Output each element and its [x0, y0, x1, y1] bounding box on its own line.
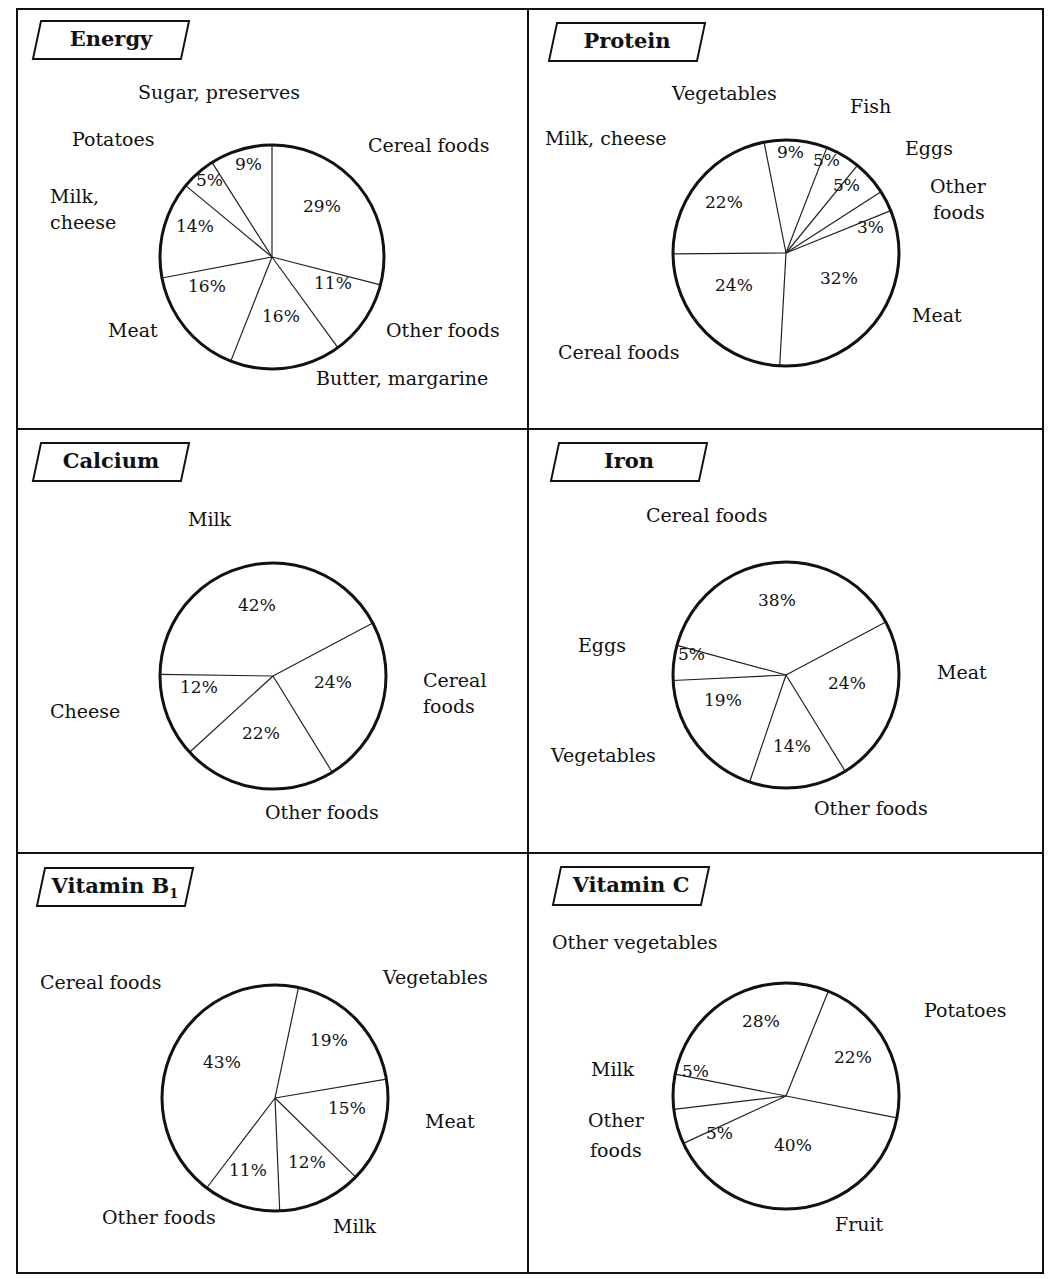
slice-label: Cereal foods	[558, 340, 679, 364]
slice-percentage: 24%	[314, 670, 352, 694]
panel-title-energy: Energy	[36, 20, 186, 60]
slice-label: Vegetables	[551, 743, 656, 767]
slice-divider	[673, 675, 786, 681]
pie-charts-canvas	[0, 0, 1061, 1279]
slice-percentage: 22%	[242, 721, 280, 745]
slice-percentage: 16%	[262, 304, 300, 328]
slice-label: Cereal	[423, 668, 487, 692]
pie-vitamin-c	[673, 983, 899, 1209]
slice-percentage: 28%	[742, 1009, 780, 1033]
slice-percentage: 14%	[176, 214, 214, 238]
slice-label: Cereal foods	[40, 970, 161, 994]
slice-label: foods	[933, 200, 985, 224]
slice-percentage: 11%	[229, 1158, 267, 1182]
slice-percentage: 5%	[706, 1121, 733, 1145]
slice-label: Milk	[188, 507, 231, 531]
slice-divider	[683, 1096, 786, 1143]
panel-title-iron: Iron	[554, 442, 704, 482]
slice-percentage: 43%	[203, 1050, 241, 1074]
slice-label: Other foods	[386, 318, 500, 342]
slice-label: foods	[590, 1138, 642, 1162]
slice-divider	[273, 623, 373, 676]
slice-label: Other vegetables	[552, 930, 717, 954]
slice-label: Vegetables	[383, 965, 488, 989]
slice-label: Milk,	[50, 184, 99, 208]
panel-title-vitamin-c: Vitamin C	[556, 866, 706, 906]
slice-divider	[673, 253, 786, 254]
pie-energy	[160, 145, 384, 369]
slice-percentage: 29%	[303, 194, 341, 218]
slice-percentage: 12%	[288, 1150, 326, 1174]
slice-label: foods	[423, 694, 475, 718]
slice-percentage: 9%	[777, 140, 804, 164]
slice-divider	[786, 1096, 897, 1118]
slice-label: Meat	[937, 660, 987, 684]
slice-percentage: 9%	[235, 152, 262, 176]
slice-label: Potatoes	[924, 998, 1007, 1022]
slice-divider	[786, 622, 886, 675]
slice-label: Milk	[591, 1057, 634, 1081]
panel-title-calcium: Calcium	[36, 442, 186, 482]
slice-label: Other foods	[265, 800, 379, 824]
slice-label: Sugar, preserves	[138, 80, 300, 104]
slice-label: Fruit	[835, 1212, 883, 1236]
slice-divider	[786, 991, 828, 1096]
slice-divider	[275, 1098, 280, 1211]
slice-percentage: 38%	[758, 588, 796, 612]
slice-label: Vegetables	[672, 81, 777, 105]
title-text: Protein	[552, 28, 702, 53]
slice-percentage: 5%	[678, 642, 705, 666]
slice-divider	[750, 675, 786, 782]
slice-label: Meat	[912, 303, 962, 327]
slice-label: Meat	[108, 318, 158, 342]
slice-label: cheese	[50, 210, 116, 234]
slice-label: Meat	[425, 1109, 475, 1133]
slice-label: Cereal foods	[368, 133, 489, 157]
slice-percentage: 19%	[310, 1028, 348, 1052]
slice-percentage: 12%	[180, 675, 218, 699]
pie-protein	[673, 140, 899, 366]
title-text: Vitamin B1	[40, 873, 190, 901]
slice-percentage: 16%	[188, 274, 226, 298]
slice-percentage: 5%	[682, 1059, 709, 1083]
slice-percentage: 24%	[715, 273, 753, 297]
slice-label: Other	[588, 1108, 644, 1132]
slice-label: Other foods	[102, 1205, 216, 1229]
slice-percentage: 19%	[704, 688, 742, 712]
slice-label: Eggs	[905, 136, 953, 160]
slice-divider	[780, 253, 786, 366]
slice-label: Other foods	[814, 796, 928, 820]
slice-percentage: 5%	[196, 168, 223, 192]
slice-percentage: 5%	[813, 148, 840, 172]
title-text: Energy	[36, 26, 186, 51]
slice-label: Butter, margarine	[316, 366, 488, 390]
slice-percentage: 40%	[774, 1133, 812, 1157]
slice-label: Fish	[850, 94, 891, 118]
slice-percentage: 11%	[314, 271, 352, 295]
slice-divider	[275, 987, 298, 1098]
slice-percentage: 3%	[857, 215, 884, 239]
slice-percentage: 22%	[834, 1045, 872, 1069]
slice-divider	[674, 1096, 786, 1109]
slice-percentage: 32%	[820, 266, 858, 290]
title-text: Calcium	[36, 448, 186, 473]
slice-label: Cereal foods	[646, 503, 767, 527]
slice-percentage: 24%	[828, 671, 866, 695]
slice-label: Potatoes	[72, 127, 155, 151]
slice-label: Cheese	[50, 699, 120, 723]
slice-percentage: 22%	[705, 190, 743, 214]
slice-percentage: 15%	[328, 1096, 366, 1120]
slice-label: Other	[930, 174, 986, 198]
slice-label: Milk, cheese	[545, 126, 667, 150]
panel-title-vitamin-b: Vitamin B1	[40, 867, 190, 907]
slice-percentage: 14%	[773, 734, 811, 758]
title-text: Iron	[554, 448, 704, 473]
slice-percentage: 42%	[238, 593, 276, 617]
slice-label: Eggs	[578, 633, 626, 657]
slice-label: Milk	[333, 1214, 376, 1238]
title-text: Vitamin C	[556, 872, 706, 897]
slice-percentage: 5%	[833, 173, 860, 197]
panel-title-protein: Protein	[552, 22, 702, 62]
